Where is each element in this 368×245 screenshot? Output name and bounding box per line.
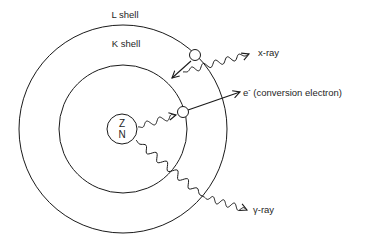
conversion-electron-label: e- (conversion electron) (243, 86, 342, 98)
k-shell-electron (178, 107, 189, 118)
gamma-ray-label: γ-ray (253, 204, 274, 215)
nucleus-z-label: Z (119, 118, 125, 129)
nucleus-n-label: N (118, 129, 125, 140)
conversion-electron-arrow (188, 92, 240, 110)
conversion-electron-text: (conversion electron) (251, 87, 342, 98)
nuclear-transition-wave (138, 115, 176, 128)
l-shell-label: L shell (111, 9, 138, 20)
gamma-wave-outer (204, 197, 247, 211)
xray-label: x-ray (258, 47, 279, 58)
diagram-canvas: L shell K shell Z N x-ray e- (conversion… (0, 0, 368, 245)
l-shell-electron (190, 50, 201, 61)
atom-diagram: L shell K shell Z N x-ray e- (conversion… (0, 0, 368, 245)
electron-drop-arrow (172, 61, 191, 78)
nucleus: Z N (107, 114, 137, 144)
k-shell-label: K shell (112, 38, 141, 49)
